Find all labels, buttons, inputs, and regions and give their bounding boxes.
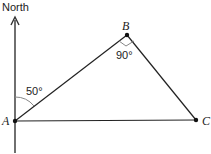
side-bc bbox=[127, 35, 196, 120]
point-a bbox=[13, 119, 17, 123]
side-ac bbox=[15, 120, 196, 121]
point-c bbox=[194, 118, 198, 122]
bearing-angle-label: 50° bbox=[26, 85, 43, 97]
right-angle-label: 90° bbox=[116, 49, 133, 61]
north-label: North bbox=[2, 1, 29, 13]
diagram-canvas: North 50° 90° A B C bbox=[0, 0, 211, 154]
point-a-label: A bbox=[1, 114, 10, 128]
side-ab bbox=[15, 35, 127, 121]
point-b bbox=[125, 33, 129, 37]
point-c-label: C bbox=[202, 114, 211, 128]
point-b-label: B bbox=[122, 19, 130, 33]
bearing-arc bbox=[15, 97, 34, 106]
